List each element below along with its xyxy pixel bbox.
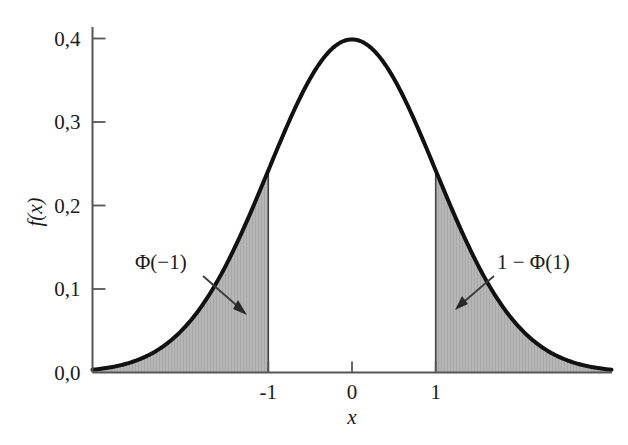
y-tick-label: 0,1 bbox=[54, 277, 80, 301]
x-tick-label: -1 bbox=[260, 380, 278, 404]
x-axis-ticks bbox=[268, 362, 435, 373]
x-tick-label: 1 bbox=[430, 380, 441, 404]
axes bbox=[93, 27, 613, 373]
y-tick-label: 0,3 bbox=[54, 110, 80, 134]
y-axis-label: f(x) bbox=[23, 197, 47, 226]
right-tail-annotation-label: 1 − Φ(1) bbox=[497, 250, 570, 274]
chart-canvas: 0,00,10,20,30,4 -101 f(x) x Φ(−1) 1 − Φ(… bbox=[0, 0, 628, 445]
left-tail-annotation-label: Φ(−1) bbox=[135, 250, 187, 274]
y-tick-label: 0,2 bbox=[54, 194, 80, 218]
y-axis-ticks bbox=[93, 39, 106, 290]
y-tick-label: 0,4 bbox=[54, 27, 81, 51]
normal-curve bbox=[93, 39, 612, 369]
x-axis-tick-labels: -101 bbox=[260, 380, 441, 404]
y-tick-label: 0,0 bbox=[54, 361, 80, 385]
tail-boundary-lines bbox=[268, 170, 435, 372]
x-tick-label: 0 bbox=[347, 380, 358, 404]
x-axis-label: x bbox=[346, 405, 357, 429]
pdf-curve-path bbox=[93, 39, 612, 369]
y-axis-tick-labels: 0,00,10,20,30,4 bbox=[54, 27, 81, 385]
normal-distribution-chart: 0,00,10,20,30,4 -101 f(x) x Φ(−1) 1 − Φ(… bbox=[0, 0, 628, 445]
